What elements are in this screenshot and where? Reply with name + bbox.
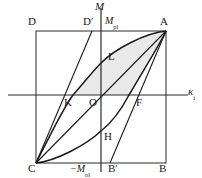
point-label-D: D	[28, 16, 36, 27]
axis-label-M: M	[95, 1, 104, 12]
value-label-Mpl-negative-text: −M	[70, 163, 85, 174]
point-label-L: L	[108, 51, 115, 62]
axis-label-kappa-sub: i	[193, 94, 195, 101]
value-label-Mpl-negative-sub: pl	[85, 171, 90, 178]
axis-label-kappa: κi	[188, 86, 195, 100]
point-label-B-prime: B′	[108, 163, 118, 174]
point-label-K: K	[64, 97, 72, 108]
point-label-D-prime: D′	[83, 16, 93, 27]
value-label-Mpl-positive-sub: pl	[113, 23, 118, 30]
value-label-Mpl-negative: −Mpl	[70, 164, 90, 177]
origin-label-O: O	[89, 97, 97, 108]
value-label-Mpl-positive: Mpl	[105, 16, 118, 29]
figure-canvas: D D′ Mpl M A L K O F κi H C −Mpl B′ B	[0, 0, 202, 177]
point-label-D-prime-text: D	[83, 15, 91, 27]
point-label-F: F	[136, 97, 142, 108]
prime-mark-D: ′	[91, 16, 93, 27]
point-label-B: B	[159, 163, 166, 174]
point-label-A: A	[160, 16, 168, 27]
point-label-H: H	[104, 131, 112, 142]
prime-mark-B: ′	[115, 163, 117, 174]
point-label-C: C	[28, 163, 35, 174]
